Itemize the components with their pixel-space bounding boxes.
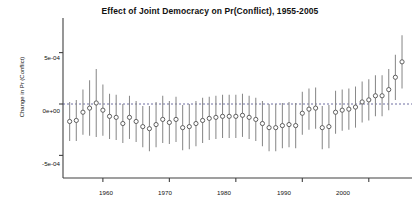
estimate-point — [380, 75, 384, 116]
estimate-point — [147, 106, 151, 151]
estimate-point — [340, 90, 344, 131]
point-marker — [287, 122, 291, 126]
point-marker — [214, 115, 218, 119]
point-marker — [81, 110, 85, 114]
estimate-point — [207, 97, 211, 140]
estimate-point — [254, 98, 258, 141]
point-marker — [400, 60, 404, 64]
point-marker — [74, 118, 78, 122]
estimate-point — [87, 80, 91, 136]
point-marker — [220, 114, 224, 118]
estimate-point — [240, 94, 244, 137]
estimate-point — [294, 103, 298, 148]
estimate-point — [74, 100, 78, 141]
point-marker — [181, 126, 185, 130]
estimate-point — [360, 81, 364, 122]
estimate-point — [220, 95, 224, 138]
estimate-point — [141, 106, 145, 147]
estimate-point — [154, 102, 158, 147]
estimate-point — [260, 101, 264, 146]
estimate-point — [373, 75, 377, 116]
point-marker — [154, 122, 158, 126]
point-marker — [314, 106, 318, 110]
point-marker — [247, 115, 251, 119]
point-marker — [161, 117, 165, 121]
estimate-point — [314, 88, 318, 129]
point-marker — [320, 126, 324, 130]
point-marker — [167, 120, 171, 124]
point-marker — [294, 123, 298, 127]
point-marker — [260, 121, 264, 125]
point-marker — [227, 114, 231, 118]
point-marker — [254, 117, 258, 121]
estimate-point — [187, 104, 191, 149]
point-marker — [234, 114, 238, 118]
estimate-point — [307, 89, 311, 130]
estimate-point — [134, 101, 138, 142]
point-marker — [387, 88, 391, 92]
point-marker — [94, 101, 98, 105]
plot-area — [0, 0, 420, 208]
estimate-point — [400, 35, 404, 88]
point-marker — [87, 106, 91, 110]
point-marker — [340, 108, 344, 112]
estimate-point — [174, 97, 178, 142]
point-marker — [327, 125, 331, 129]
point-marker — [373, 94, 377, 98]
point-marker — [207, 116, 211, 120]
estimate-point — [114, 95, 118, 140]
point-marker — [187, 125, 191, 129]
estimate-point — [227, 95, 231, 138]
point-marker — [194, 121, 198, 125]
point-marker — [101, 108, 105, 112]
point-marker — [360, 100, 364, 104]
estimate-point — [107, 94, 111, 139]
point-marker — [307, 107, 311, 111]
point-marker — [114, 115, 118, 119]
point-marker — [174, 117, 178, 121]
point-marker — [393, 75, 397, 79]
estimate-point — [214, 96, 218, 139]
point-marker — [134, 119, 138, 123]
point-marker — [347, 107, 351, 111]
estimate-point — [274, 104, 278, 151]
point-marker — [380, 94, 384, 98]
estimate-point — [101, 84, 105, 135]
estimate-point — [300, 92, 304, 135]
point-marker — [240, 113, 244, 117]
point-marker — [107, 114, 111, 118]
point-marker — [280, 123, 284, 127]
estimate-point — [347, 89, 351, 130]
estimate-point — [121, 104, 125, 143]
estimate-point — [201, 98, 205, 143]
estimate-point — [81, 90, 85, 135]
estimate-point — [127, 96, 131, 139]
point-marker — [121, 121, 125, 125]
estimate-point — [353, 87, 357, 128]
estimate-point — [333, 91, 337, 134]
point-marker — [353, 105, 357, 109]
estimate-point — [247, 96, 251, 139]
estimate-point — [287, 102, 291, 147]
point-marker — [147, 127, 151, 131]
estimate-point — [68, 102, 72, 141]
estimate-point — [167, 101, 171, 144]
estimate-point — [181, 105, 185, 150]
estimate-point — [194, 101, 198, 146]
point-marker — [274, 126, 278, 130]
point-marker — [201, 118, 205, 122]
estimate-point — [267, 104, 271, 151]
estimate-point — [320, 106, 324, 149]
point-marker — [127, 115, 131, 119]
estimate-point — [280, 103, 284, 148]
estimate-point — [367, 79, 371, 120]
point-marker — [367, 98, 371, 102]
estimate-point — [161, 96, 165, 143]
chart-figure: Effect of Joint Democracy on Pr(Conflict… — [0, 0, 420, 208]
point-marker — [300, 111, 304, 115]
estimate-series — [68, 35, 405, 151]
point-marker — [141, 125, 145, 129]
estimate-point — [393, 55, 397, 100]
point-marker — [333, 110, 337, 114]
estimate-point — [94, 69, 98, 137]
